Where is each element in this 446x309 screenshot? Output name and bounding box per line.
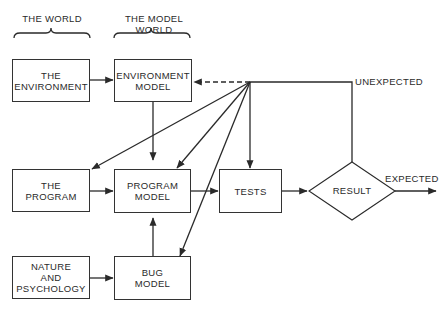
- label-unexpected: UNEXPECTED: [355, 76, 423, 87]
- result-label: RESULT: [322, 185, 382, 196]
- header-the-world: THE WORLD: [10, 13, 94, 24]
- box-program-model: PROGRAM MODEL: [114, 169, 191, 213]
- brace-world: [14, 28, 90, 38]
- box-tests: TESTS: [219, 169, 282, 213]
- box-the-program: THE PROGRAM: [12, 169, 90, 212]
- header-the-model-world: THE MODEL WORLD: [106, 13, 202, 35]
- label-expected: EXPECTED: [385, 173, 439, 184]
- box-the-environment: THE ENVIRONMENT: [12, 59, 90, 102]
- box-environment-model: ENVIRONMENT MODEL: [114, 59, 192, 102]
- box-nature-and-psychology: NATURE AND PSYCHOLOGY: [12, 256, 90, 299]
- box-bug-model: BUG MODEL: [114, 256, 191, 300]
